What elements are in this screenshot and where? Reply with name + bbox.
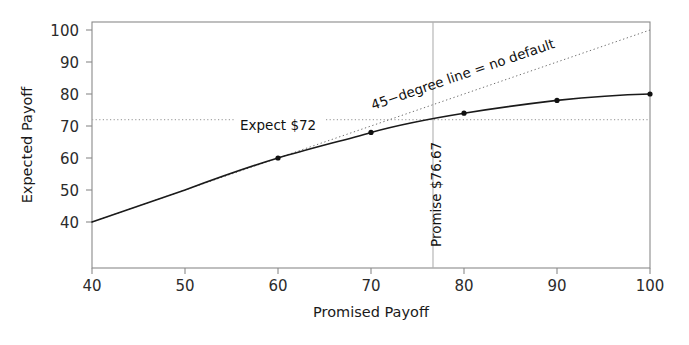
expect-annotation-group: Expect $72 bbox=[236, 117, 326, 133]
x-tick-label-60: 60 bbox=[268, 277, 287, 295]
x-axis-title: Promised Payoff bbox=[313, 304, 430, 320]
y-axis-title-group: Expected Payoff bbox=[19, 86, 35, 204]
data-point-90 bbox=[554, 98, 559, 103]
chart-figure: 100 90 80 70 60 50 40 40 50 60 70 80 90 … bbox=[0, 0, 689, 345]
y-tick-label-100: 100 bbox=[50, 22, 79, 40]
data-point-80 bbox=[461, 111, 466, 116]
x-tick-label-100: 100 bbox=[636, 277, 665, 295]
chart-svg: 100 90 80 70 60 50 40 40 50 60 70 80 90 … bbox=[0, 0, 689, 345]
y-tick-label-80: 80 bbox=[60, 86, 79, 104]
chart-background bbox=[0, 0, 689, 345]
promise-annotation-group: Promise $76.67 bbox=[428, 142, 444, 247]
x-tick-label-50: 50 bbox=[175, 277, 194, 295]
data-point-60 bbox=[275, 155, 280, 160]
y-tick-label-40: 40 bbox=[60, 214, 79, 232]
expect-annotation-label: Expect $72 bbox=[240, 117, 316, 133]
x-tick-label-90: 90 bbox=[547, 277, 566, 295]
y-tick-label-50: 50 bbox=[60, 182, 79, 200]
x-tick-label-70: 70 bbox=[361, 277, 380, 295]
data-point-70 bbox=[368, 130, 373, 135]
y-tick-label-90: 90 bbox=[60, 54, 79, 72]
x-tick-label-80: 80 bbox=[454, 277, 473, 295]
y-axis-title: Expected Payoff bbox=[19, 86, 35, 204]
promise-annotation-label: Promise $76.67 bbox=[428, 142, 444, 247]
data-point-100 bbox=[647, 91, 652, 96]
x-tick-label-40: 40 bbox=[82, 277, 101, 295]
y-tick-label-60: 60 bbox=[60, 150, 79, 168]
y-tick-label-70: 70 bbox=[60, 118, 79, 136]
